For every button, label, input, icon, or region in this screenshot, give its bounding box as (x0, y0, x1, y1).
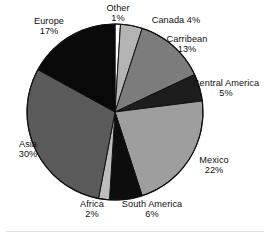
pie-label-asia-name: Asia (8, 139, 48, 149)
pie-label-asia-value: 30% (8, 149, 48, 159)
pie-label-europe-name: Europe (24, 16, 74, 26)
pie-label-europe: Europe 17% (24, 16, 74, 37)
pie-label-other: Other 1% (96, 3, 140, 24)
pie-label-central-america-value: 5% (183, 88, 269, 98)
pie-label-other-value: 1% (96, 13, 140, 23)
pie-label-other-name: Other (96, 3, 140, 13)
pie-label-south-america-value: 6% (113, 209, 191, 219)
pie-label-central-america-name: Central America (183, 78, 269, 88)
pie-label-central-america: Central America 5% (183, 78, 269, 99)
pie-chart-figure: Other 1% Canada 4% Carribean 13% Central… (0, 0, 270, 236)
pie-label-south-america-name: South America (113, 199, 191, 209)
pie-label-carribean-value: 13% (155, 44, 219, 54)
pie-label-canada-name: Canada (152, 15, 184, 25)
bottom-rule (6, 231, 264, 232)
pie-label-canada-value: 4% (187, 15, 200, 25)
pie-label-south-america: South America 6% (113, 199, 191, 220)
pie-label-mexico: Mexico 22% (188, 155, 240, 176)
pie-label-canada: Canada 4% (139, 15, 213, 25)
pie-label-africa-name: Africa (72, 199, 112, 209)
pie-label-mexico-value: 22% (188, 165, 240, 175)
pie-label-carribean-name: Carribean (155, 34, 219, 44)
pie-label-africa-value: 2% (72, 209, 112, 219)
pie-label-africa: Africa 2% (72, 199, 112, 220)
pie-label-europe-value: 17% (24, 26, 74, 36)
pie-label-mexico-name: Mexico (188, 155, 240, 165)
pie-label-asia: Asia 30% (8, 139, 48, 160)
pie-label-carribean: Carribean 13% (155, 34, 219, 55)
